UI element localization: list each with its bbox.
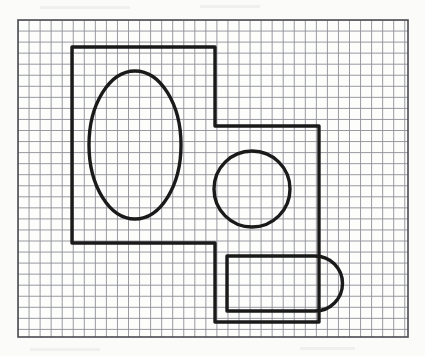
technical-drawing-canvas — [0, 0, 425, 356]
paper-speck — [200, 5, 260, 8]
screenshot-root — [0, 0, 425, 356]
paper-speck — [300, 347, 355, 350]
paper-speck — [30, 348, 100, 351]
paper-speck — [40, 6, 130, 9]
graph-paper-grid — [18, 20, 408, 337]
